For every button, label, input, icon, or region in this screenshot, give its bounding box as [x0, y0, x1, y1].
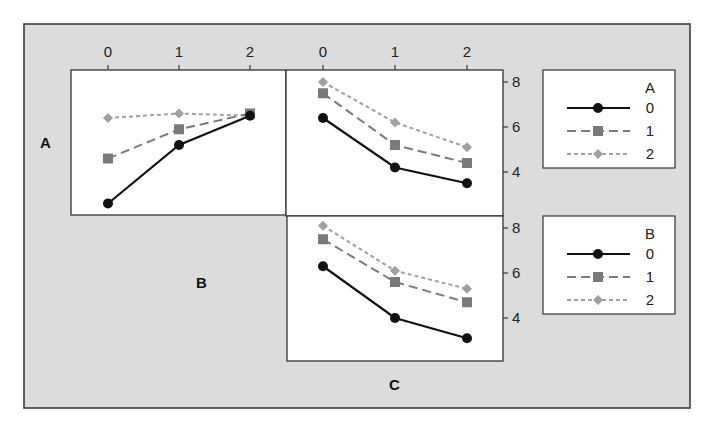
circle-marker-icon — [318, 261, 328, 271]
legend-entry-label: 0 — [646, 245, 654, 262]
legend-entry-label: 2 — [646, 145, 654, 162]
x-tick-label: 0 — [104, 43, 112, 60]
square-marker-icon — [462, 158, 472, 168]
circle-marker-icon — [593, 103, 603, 113]
x-tick-label: 1 — [391, 43, 399, 60]
circle-marker-icon — [174, 140, 184, 150]
circle-marker-icon — [103, 199, 113, 209]
y-tick-label: 6 — [512, 264, 520, 281]
circle-marker-icon — [462, 333, 472, 343]
legend-entry-label: 1 — [646, 268, 654, 285]
legend-title: B — [645, 225, 655, 242]
y-tick-label: 4 — [512, 163, 520, 180]
circle-marker-icon — [462, 178, 472, 188]
col-label-c: C — [389, 376, 400, 393]
row-label-a: A — [40, 134, 51, 151]
row-label-b: B — [196, 274, 207, 291]
square-marker-icon — [318, 234, 328, 244]
y-tick-label: 6 — [512, 118, 520, 135]
circle-marker-icon — [390, 313, 400, 323]
square-marker-icon — [593, 126, 603, 136]
y-tick-label: 8 — [512, 219, 520, 236]
x-tick-label: 2 — [246, 43, 254, 60]
square-marker-icon — [174, 124, 184, 134]
square-marker-icon — [390, 277, 400, 287]
square-marker-icon — [318, 88, 328, 98]
circle-marker-icon — [593, 249, 603, 259]
square-marker-icon — [390, 140, 400, 150]
x-tick-label: 1 — [175, 43, 183, 60]
legend-entry-label: 2 — [646, 291, 654, 308]
x-tick-label: 0 — [319, 43, 327, 60]
x-tick-label: 2 — [463, 43, 471, 60]
circle-marker-icon — [390, 163, 400, 173]
y-tick-label: 4 — [512, 309, 520, 326]
legend-title: A — [645, 79, 655, 96]
interaction-plot-matrix: 012012 468468 A B C A012B012 — [0, 0, 715, 429]
legend-entry-label: 1 — [646, 122, 654, 139]
y-tick-label: 8 — [512, 73, 520, 90]
square-marker-icon — [462, 297, 472, 307]
square-marker-icon — [103, 154, 113, 164]
circle-marker-icon — [318, 113, 328, 123]
square-marker-icon — [593, 272, 603, 282]
legend-entry-label: 0 — [646, 99, 654, 116]
circle-marker-icon — [245, 111, 255, 121]
